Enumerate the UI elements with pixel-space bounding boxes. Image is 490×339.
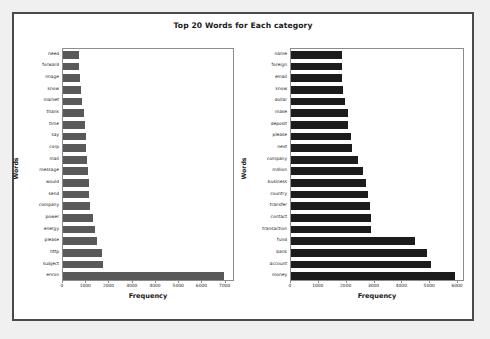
y-tick-label: transaction	[262, 226, 287, 230]
bar-power	[63, 214, 233, 222]
x-tick-label: 1000	[80, 283, 91, 288]
y-tick-label: need	[48, 52, 59, 56]
bar-fund	[291, 237, 463, 245]
x-tick-mark	[178, 280, 179, 283]
bar-fill	[63, 214, 93, 222]
bar-fill	[63, 109, 84, 117]
bar-fill	[291, 86, 343, 94]
figure-title: Top 20 Words for Each category	[14, 21, 472, 30]
y-tick-label: know	[275, 87, 287, 91]
subplot-left: Words needforwardimageknowmarketthanktim…	[16, 34, 244, 316]
x-tick-label: 3000	[368, 283, 379, 288]
bar-fill	[63, 156, 87, 164]
bar-fill	[63, 261, 103, 269]
y-tick-label: subject	[43, 261, 59, 265]
bar-fill	[63, 167, 88, 175]
x-tick-mark	[318, 280, 319, 283]
bar-transaction	[291, 226, 463, 234]
x-tick-label: 6000	[451, 283, 462, 288]
y-tick-label: time	[49, 122, 59, 126]
x-tick-mark	[225, 280, 226, 283]
x-tick-label: 0	[289, 283, 292, 288]
bar-fill	[63, 191, 89, 199]
bar-fill	[291, 249, 427, 257]
y-tick-label: send	[48, 191, 59, 195]
bar-million	[291, 167, 463, 175]
bar-please	[291, 133, 463, 141]
bar-fill	[63, 202, 90, 210]
bar-company	[63, 202, 233, 210]
bar-forward	[63, 63, 233, 71]
figure-panel: Top 20 Words for Each category Words nee…	[12, 12, 474, 321]
bar-fill	[63, 249, 102, 257]
x-tick-label: 4000	[149, 283, 160, 288]
y-tick-label: email	[275, 75, 287, 79]
x-tick-mark	[132, 280, 133, 283]
bar-message	[63, 167, 233, 175]
bar-dollar	[291, 98, 463, 106]
bar-fill	[291, 261, 431, 269]
bar-corp	[63, 144, 233, 152]
bar-mail	[63, 156, 233, 164]
y-tick-label: business	[268, 180, 287, 184]
y-tick-label: deposit	[271, 122, 287, 126]
y-tick-label: next	[277, 145, 287, 149]
y-tick-label: mail	[50, 156, 59, 160]
bar-send	[63, 191, 233, 199]
y-tick-label: please	[45, 238, 59, 242]
bar-would	[63, 179, 233, 187]
bar-subject	[63, 261, 233, 269]
x-tick-mark	[457, 280, 458, 283]
bar-enron	[63, 272, 233, 280]
x-tick-mark	[62, 280, 63, 283]
bar-fill	[291, 191, 368, 199]
y-tick-label: company	[39, 203, 59, 207]
bar-fill	[291, 202, 370, 210]
bar-fill	[63, 237, 97, 245]
x-tick-mark	[346, 280, 347, 283]
y-tick-label: http	[50, 250, 59, 254]
bar-market	[63, 98, 233, 106]
bar-fill	[63, 86, 81, 94]
plot-area-left	[62, 48, 234, 281]
bar-please	[63, 237, 233, 245]
y-tick-label: forward	[42, 63, 59, 67]
x-tick-mark	[155, 280, 156, 283]
bar-fill	[291, 156, 358, 164]
y-tick-label: power	[45, 215, 59, 219]
x-tick-mark	[401, 280, 402, 283]
x-tick-mark	[429, 280, 430, 283]
y-tick-label: message	[39, 168, 59, 172]
bar-fill	[291, 167, 363, 175]
x-tick-label: 3000	[126, 283, 137, 288]
x-tick-label: 6000	[196, 283, 207, 288]
bar-fill	[63, 133, 86, 141]
y-tick-label: country	[270, 191, 287, 195]
bar-fill	[63, 98, 82, 106]
y-tick-label: dollar	[275, 98, 287, 102]
y-tick-label: name	[275, 52, 287, 56]
x-tick-mark	[85, 280, 86, 283]
bar-foreign	[291, 63, 463, 71]
bar-fill	[291, 237, 415, 245]
x-tick-label: 4000	[396, 283, 407, 288]
y-tick-label: image	[45, 75, 59, 79]
y-tick-label: make	[275, 110, 287, 114]
bar-business	[291, 179, 463, 187]
bar-fill	[63, 121, 85, 129]
y-tick-labels-left: needforwardimageknowmarketthanktimesayco…	[16, 48, 59, 281]
y-tick-label: million	[272, 168, 287, 172]
y-tick-label: money	[272, 273, 287, 277]
x-axis-label-right: Frequency	[290, 292, 464, 300]
x-tick-mark	[201, 280, 202, 283]
bar-know	[291, 86, 463, 94]
x-tick-label: 5000	[173, 283, 184, 288]
x-tick-mark	[290, 280, 291, 283]
bar-deposit	[291, 121, 463, 129]
y-tick-label: transfer	[270, 203, 287, 207]
y-tick-label: would	[46, 180, 59, 184]
bar-fill	[291, 226, 371, 234]
bar-need	[63, 51, 233, 59]
bar-fill	[291, 144, 352, 152]
bar-contact	[291, 214, 463, 222]
